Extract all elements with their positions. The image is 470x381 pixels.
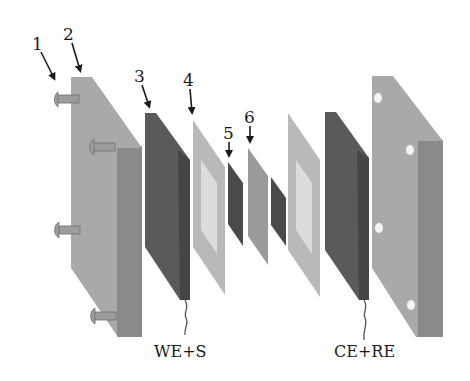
arrow-1: [41, 52, 54, 78]
ce-lead-wire: [364, 300, 366, 340]
thin-dark-plate-7: [271, 177, 286, 246]
callout-5: 5: [223, 123, 234, 143]
bolt-hole-icon: [407, 300, 415, 310]
right-end-plate-side: [418, 140, 443, 337]
right-end-plate: [372, 76, 443, 337]
arrow-2: [72, 43, 80, 70]
bolt-hole-icon: [374, 93, 382, 103]
callout-4: 4: [183, 70, 194, 90]
bolt-hole-icon: [406, 145, 414, 155]
callout-3: 3: [134, 66, 145, 86]
callout-2: 2: [63, 24, 74, 44]
membrane-plate-6: [248, 148, 268, 265]
working-electrode-plate: [145, 113, 190, 300]
we-lead-wire: [185, 300, 187, 335]
arrow-4: [190, 89, 192, 112]
arrow-3: [142, 85, 149, 106]
exploded-cell-diagram: 1 2 3 4 5 6 WE+S CE+RE: [0, 0, 470, 381]
caption-ce-re: CE+RE: [334, 342, 395, 361]
gasket-frame-right: [288, 113, 320, 297]
gasket-frame-left: [193, 120, 225, 295]
left-end-plate: [71, 77, 142, 337]
counter-electrode-plate: [325, 112, 369, 300]
bolt-hole-icon: [375, 223, 383, 233]
callout-1: 1: [32, 34, 43, 54]
caption-we-s: WE+S: [154, 342, 207, 361]
callout-6: 6: [244, 107, 255, 127]
left-end-plate-side: [117, 146, 142, 337]
thin-dark-plate-5: [228, 162, 243, 246]
